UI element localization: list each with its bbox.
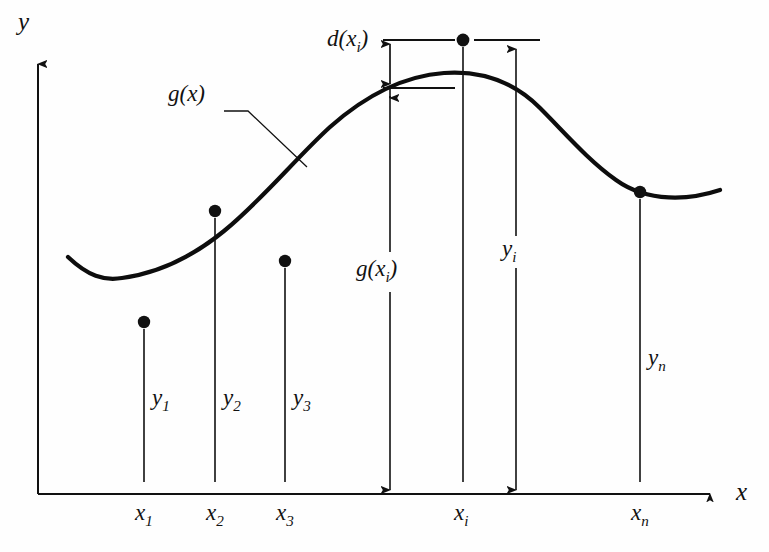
y-value-label-x2-subscript: 2 [233,397,241,414]
yi-value-label-subscript: i [512,248,516,265]
y-value-label-x3-subscript: 3 [303,397,311,414]
gx-curve-label: g(x) [168,81,205,107]
y-value-label-x1: y1 [152,385,170,415]
x-tick-label-xn: xn [631,500,649,530]
deviation-label: d(xi) [327,26,368,56]
x-tick-label-x3-subscript: 3 [286,512,294,529]
x-tick-label-x1: x1 [135,500,153,530]
deviation-label-subscript: i [356,38,360,55]
y-value-label-x3: y3 [293,385,311,415]
gxi-value-label: g(xi) [356,256,397,286]
gxi-value-label-subscript: i [385,268,389,285]
data-dot-x2 [209,205,221,217]
y-value-label-x1-subscript: 1 [162,397,170,414]
y-value-label-x2: y2 [223,385,241,415]
x-tick-label-xi-subscript: i [464,512,468,529]
yi-value-label: yi [502,236,516,266]
figure-canvas: yxg(x)d(xi)x1y1x2y2x3y3xnynxig(xi)yi [0,0,769,552]
x-tick-label-xi: xi [454,500,468,530]
data-dot-x1 [138,316,150,328]
x-tick-label-x2-subscript: 2 [216,512,224,529]
y-value-label-xn-subscript: n [658,357,666,374]
gx-leader-line [224,111,307,167]
y-axis-label: y [18,8,29,36]
gx-curve [68,73,720,279]
xi-measurement-lines [390,47,516,490]
data-dot-x3 [279,255,291,267]
y-value-label-xn: yn [648,345,666,375]
x-axis-label: x [736,478,747,506]
x-tick-label-x2: x2 [206,500,224,530]
data-drop-lines [144,199,640,482]
data-dot-xn [634,186,646,198]
x-tick-label-xn-subscript: n [641,512,649,529]
curve-label-leader [224,111,307,167]
data-dot-xi [457,34,470,47]
regression-curve [68,73,720,279]
x-tick-label-x1-subscript: 1 [145,512,153,529]
x-tick-label-x3: x3 [276,500,294,530]
